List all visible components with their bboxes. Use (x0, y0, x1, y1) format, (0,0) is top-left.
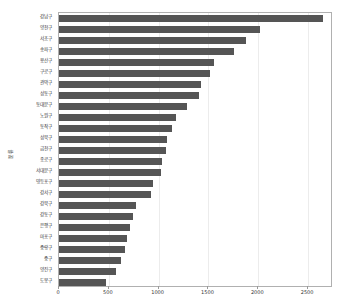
bar-fill (59, 136, 167, 143)
x-axis-tick-labels: 05001000150020002500 (58, 289, 332, 301)
y-tick-label: 강동구 (40, 213, 52, 218)
bar (59, 235, 127, 242)
x-tick-label: 2500 (301, 289, 314, 295)
y-tick-label: 동작구 (40, 125, 52, 130)
y-tick-label: 성북구 (40, 136, 52, 141)
bar (59, 92, 199, 99)
y-axis-tick-labels: 강남구양천구서초구송파구용산구구로구관악구성동구동대문구노원구동작구성북구금천구… (0, 12, 55, 287)
bar (59, 26, 260, 33)
x-tick-label: 0 (56, 289, 59, 295)
bar (59, 268, 116, 275)
bar (59, 246, 125, 253)
bar-fill (59, 268, 116, 275)
bar (59, 180, 153, 187)
bar (59, 224, 130, 231)
y-tick-label: 구로구 (40, 70, 52, 75)
bar-fill (59, 37, 246, 44)
bar (59, 48, 234, 55)
bar (59, 169, 161, 176)
bar (59, 103, 187, 110)
bar (59, 158, 162, 165)
bar (59, 125, 172, 132)
bar-fill (59, 59, 214, 66)
y-tick-label: 종로구 (40, 158, 52, 163)
bar (59, 70, 210, 77)
bar-fill (59, 169, 161, 176)
plot-area (58, 12, 332, 287)
y-tick-label: 강북구 (40, 202, 52, 207)
bar (59, 37, 246, 44)
bar (59, 202, 136, 209)
bar-fill (59, 279, 106, 286)
bar (59, 191, 151, 198)
y-tick-label: 강남구 (40, 15, 52, 20)
bar (59, 81, 201, 88)
y-tick-label: 영등포구 (36, 180, 52, 185)
y-tick-label: 금천구 (40, 147, 52, 152)
bar-fill (59, 125, 172, 132)
y-tick-label: 성동구 (40, 92, 52, 97)
x-tick-label: 2000 (251, 289, 264, 295)
bar (59, 15, 323, 22)
y-tick-label: 은평구 (40, 224, 52, 229)
bar-fill (59, 147, 166, 154)
bar (59, 279, 106, 286)
y-tick-label: 중랑구 (40, 246, 52, 251)
bar (59, 59, 214, 66)
bar-fill (59, 224, 130, 231)
bar-fill (59, 103, 187, 110)
bar-series (59, 13, 331, 286)
y-tick-label: 용산구 (40, 59, 52, 64)
bar-fill (59, 81, 201, 88)
y-tick-label: 노원구 (40, 114, 52, 119)
bar (59, 136, 167, 143)
y-tick-label: 양천구 (40, 26, 52, 31)
bar-fill (59, 26, 260, 33)
y-tick-label: 강서구 (40, 191, 52, 196)
bar-chart: 분류 강남구양천구서초구송파구용산구구로구관악구성동구동대문구노원구동작구성북구… (0, 0, 351, 307)
y-tick-label: 관악구 (40, 81, 52, 86)
y-tick-label: 양진구 (40, 268, 52, 273)
bar-fill (59, 235, 127, 242)
x-tick-label: 1000 (151, 289, 164, 295)
y-tick-label: 중구 (44, 257, 52, 262)
x-tick-label: 1500 (201, 289, 214, 295)
bar-fill (59, 191, 151, 198)
x-tick-label: 500 (103, 289, 113, 295)
bar (59, 147, 166, 154)
bar-fill (59, 257, 121, 264)
bar-fill (59, 70, 210, 77)
bar-fill (59, 15, 323, 22)
bar-fill (59, 114, 176, 121)
y-tick-label: 서초구 (40, 37, 52, 42)
bar (59, 114, 176, 121)
y-tick-label: 서대문구 (36, 169, 52, 174)
bar (59, 257, 121, 264)
y-tick-label: 동대문구 (36, 103, 52, 108)
bar-fill (59, 202, 136, 209)
y-tick-label: 도봉구 (40, 279, 52, 284)
bar-fill (59, 180, 153, 187)
bar (59, 213, 133, 220)
bar-fill (59, 246, 125, 253)
y-tick-label: 마포구 (40, 235, 52, 240)
y-tick-label: 송파구 (40, 48, 52, 53)
bar-fill (59, 48, 234, 55)
bar-fill (59, 213, 133, 220)
bar-fill (59, 158, 162, 165)
bar-fill (59, 92, 199, 99)
